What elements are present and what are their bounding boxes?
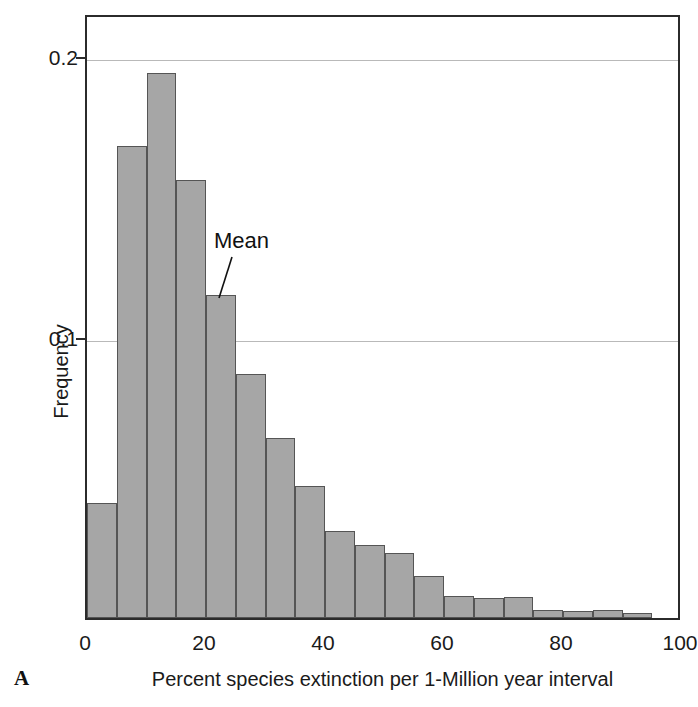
- histogram-bar: [206, 295, 236, 618]
- histogram-bars: [87, 17, 678, 618]
- histogram-bar: [325, 531, 355, 618]
- x-tick-label-60: 60: [430, 631, 453, 655]
- histogram-bar: [295, 486, 325, 618]
- panel-label: A: [14, 666, 29, 691]
- x-axis-tick-labels: 020406080100: [0, 631, 697, 663]
- x-tick-label-100: 100: [662, 631, 697, 655]
- x-tick-label-40: 40: [311, 631, 334, 655]
- histogram-bar: [355, 545, 385, 618]
- histogram-bar: [117, 146, 147, 618]
- x-axis-label: Percent species extinction per 1-Million…: [85, 668, 680, 691]
- histogram-bar: [385, 553, 415, 618]
- histogram-bar: [147, 73, 177, 618]
- histogram-bar: [623, 613, 653, 618]
- histogram-bar: [504, 597, 534, 618]
- histogram-bar: [444, 596, 474, 618]
- histogram-bar: [533, 610, 563, 618]
- histogram-bar: [563, 611, 593, 618]
- x-tick-label-0: 0: [79, 631, 91, 655]
- histogram-bar: [176, 180, 206, 618]
- mean-annotation-leader-line: [200, 250, 260, 310]
- histogram-bar: [593, 610, 623, 618]
- x-tick-label-20: 20: [192, 631, 215, 655]
- histogram-bar: [266, 438, 296, 618]
- histogram-bar: [236, 374, 266, 618]
- plot-area: [85, 15, 680, 620]
- histogram-bar: [87, 503, 117, 618]
- histogram-bar: [414, 576, 444, 618]
- x-tick-label-80: 80: [549, 631, 572, 655]
- histogram-bar: [474, 598, 504, 618]
